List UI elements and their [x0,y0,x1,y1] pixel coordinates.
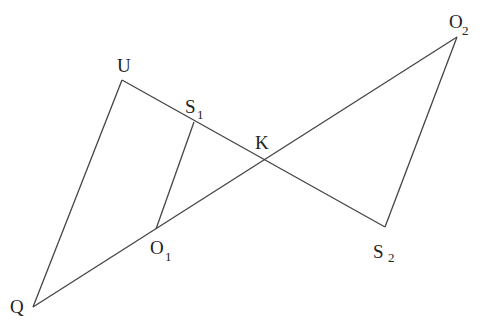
segment-o2-s2 [385,37,457,227]
label-o2: O [449,11,463,32]
label-s1: S [185,96,196,117]
label-q: Q [10,296,24,317]
geometry-diagram: U S 1 K O 2 S 2 O 1 Q [0,0,483,336]
label-o1: O [150,237,164,258]
label-u: U [117,55,131,76]
label-o1-sub: 1 [165,249,172,264]
segment-q-o2 [33,37,457,307]
segment-u-s2 [122,80,385,227]
label-s2-sub: 2 [388,250,395,265]
label-s2: S [373,241,384,262]
label-o2-sub: 2 [462,23,469,38]
segment-s1-o1 [156,122,194,229]
label-s1-sub: 1 [197,107,204,122]
segment-u-q [33,80,122,307]
label-k: K [255,132,269,153]
